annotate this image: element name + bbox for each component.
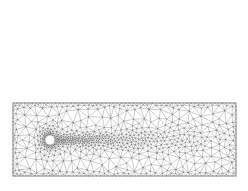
mesh-figure xyxy=(0,0,248,191)
domain-frame xyxy=(13,103,236,176)
triangular-mesh-edges xyxy=(13,103,236,176)
cylinder-hole xyxy=(45,135,55,145)
lower-mesh-panel xyxy=(0,0,248,191)
triangular-mesh-edges xyxy=(13,10,236,84)
cylinder-hole xyxy=(43,40,53,50)
domain-frame xyxy=(13,10,236,84)
upper-mesh-panel xyxy=(0,0,248,191)
